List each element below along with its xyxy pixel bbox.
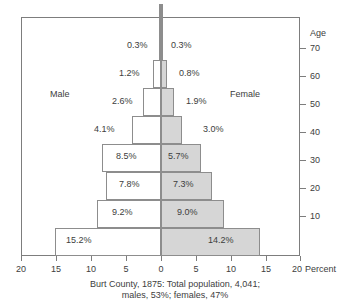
bar-female-50-59 — [161, 88, 174, 116]
age-tick-label-30: 30 — [310, 156, 320, 165]
bar-male-60-69 — [153, 60, 161, 88]
pct-tick-15 — [266, 256, 267, 261]
pct-tick-label-neg10: 10 — [86, 265, 96, 274]
bar-label-female-10-19: 9.0% — [177, 208, 198, 217]
bar-label-female-0-9: 14.2% — [208, 236, 234, 245]
pct-tick-label-20: 20 — [292, 265, 302, 274]
bar-label-male-30-39: 8.5% — [116, 152, 137, 161]
bar-female-80plus — [161, 4, 163, 32]
bar-label-male-60-69: 1.2% — [119, 69, 140, 78]
pct-tick-20 — [300, 256, 301, 261]
bar-label-male-70-79: 0.3% — [127, 41, 148, 50]
pct-tick-label-5: 5 — [193, 265, 198, 274]
age-tick-label-20: 20 — [310, 184, 320, 193]
bar-male-50-59 — [143, 88, 161, 116]
pct-tick-label-neg20: 20 — [16, 265, 26, 274]
age-tick-20 — [300, 188, 306, 189]
pct-tick-neg5 — [126, 256, 127, 261]
pct-tick-neg10 — [91, 256, 92, 261]
bar-label-female-20-29: 7.3% — [173, 180, 194, 189]
series-label-female: Female — [230, 90, 260, 99]
caption-line-2: males, 53%; females, 47% — [0, 290, 350, 300]
age-tick-label-70: 70 — [310, 44, 320, 53]
age-tick-10 — [300, 216, 306, 217]
percent-axis-unit-label: Percent — [305, 265, 336, 274]
age-tick-label-40: 40 — [310, 128, 320, 137]
bar-female-60-69 — [161, 60, 167, 88]
pct-tick-0 — [161, 256, 162, 261]
age-tick-label-10: 10 — [310, 212, 320, 221]
bar-male-40-49 — [132, 116, 161, 144]
pct-tick-neg15 — [56, 256, 57, 261]
bar-label-female-40-49: 3.0% — [203, 125, 224, 134]
bar-female-40-49 — [161, 116, 182, 144]
pct-tick-label-neg15: 15 — [51, 265, 61, 274]
pct-tick-label-neg5: 5 — [123, 265, 128, 274]
population-pyramid-chart: 0.3% 1.2% 2.6% 4.1% 8.5% 7.8% 9.2% 15.2%… — [0, 0, 350, 300]
age-tick-70 — [300, 48, 306, 49]
age-tick-label-60: 60 — [310, 72, 320, 81]
pct-tick-5 — [196, 256, 197, 261]
bar-label-female-30-39: 5.7% — [168, 152, 189, 161]
pct-tick-label-10: 10 — [226, 265, 236, 274]
age-axis-title: Age — [310, 29, 326, 38]
pct-tick-label-0: 0 — [158, 265, 163, 274]
pct-tick-10 — [231, 256, 232, 261]
age-tick-40 — [300, 132, 306, 133]
bar-label-male-10-19: 9.2% — [112, 208, 133, 217]
bar-female-70-79 — [161, 32, 163, 60]
pct-tick-label-15: 15 — [261, 265, 271, 274]
pct-tick-neg20 — [21, 256, 22, 261]
age-tick-label-50: 50 — [310, 100, 320, 109]
age-tick-30 — [300, 160, 306, 161]
bar-label-female-70-79: 0.3% — [171, 41, 192, 50]
age-tick-60 — [300, 76, 306, 77]
series-label-male: Male — [50, 90, 70, 99]
bar-label-female-60-69: 0.8% — [179, 69, 200, 78]
age-tick-50 — [300, 104, 306, 105]
caption-line-1: Burt County, 1875: Total population, 4,0… — [0, 279, 350, 290]
bar-label-male-20-29: 7.8% — [119, 180, 140, 189]
bar-label-female-50-59: 1.9% — [186, 97, 207, 106]
bar-label-male-40-49: 4.1% — [94, 125, 115, 134]
bar-label-male-0-9: 15.2% — [66, 236, 92, 245]
bar-label-male-50-59: 2.6% — [112, 97, 133, 106]
